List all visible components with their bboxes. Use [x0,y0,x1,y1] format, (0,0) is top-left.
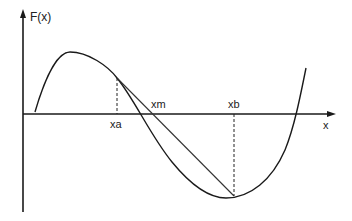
xa-label: xa [110,119,122,130]
y-axis-arrow-icon [20,9,26,18]
xm-label: xm [151,99,166,110]
function-curve [35,52,306,198]
y-axis [20,9,26,212]
x-axis [23,111,336,117]
x-axis-label: x [323,120,329,131]
xb-label: xb [228,99,240,110]
function-diagram [0,0,352,221]
secant-line [117,78,234,196]
y-axis-label: F(x) [30,11,51,23]
x-axis-arrow-icon [327,111,336,117]
